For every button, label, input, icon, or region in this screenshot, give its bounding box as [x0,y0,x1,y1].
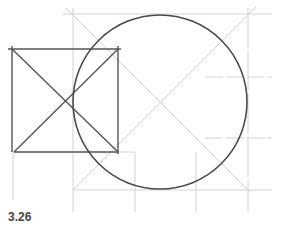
guide-diagonal-up [73,7,256,190]
figure-caption: 3.26 [8,211,31,223]
guide-diagonal-down [66,8,250,192]
square-with-diagonals [8,46,121,154]
figure-drawing [0,0,281,227]
construction-lines [13,7,272,212]
